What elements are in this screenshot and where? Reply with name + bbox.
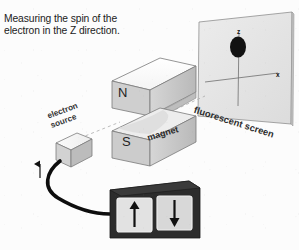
caption-line-1: Measuring the spin of the [4,13,154,25]
z-axis-label: z [237,28,240,35]
figure-canvas: Measuring the spin of the electron in th… [0,0,299,250]
x-axis-label: x [276,71,280,78]
figure-caption: Measuring the spin of the electron in th… [4,13,154,38]
north-pole-label: N [118,85,127,100]
screen-face [198,12,292,124]
detector-indicator-up[interactable] [117,198,152,232]
detector-indicator-down[interactable] [157,196,192,230]
caption-line-2: electron in the Z direction. [4,25,154,37]
south-pole-label: S [122,134,131,149]
source-cable [48,161,110,214]
electron-impact-blob [230,37,246,58]
